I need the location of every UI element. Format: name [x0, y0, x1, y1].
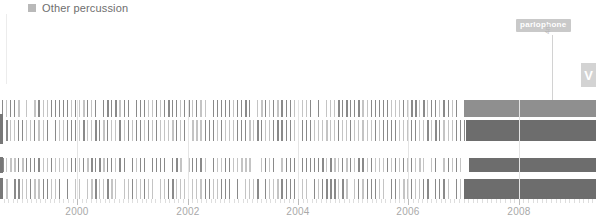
chart-bar — [415, 120, 416, 141]
axis-minor-tick — [128, 199, 129, 203]
chart-bar — [34, 120, 35, 141]
chart-bar — [119, 158, 121, 172]
chart-bar — [67, 100, 68, 117]
chart-bar — [67, 158, 68, 172]
chart-bar — [371, 179, 372, 199]
axis-minor-tick — [178, 199, 179, 203]
axis-minor-tick — [275, 199, 276, 203]
chart-bar — [63, 100, 65, 117]
chart-bar — [294, 158, 295, 172]
chart-bar — [184, 100, 185, 117]
chart-bar — [233, 120, 234, 141]
axis-minor-tick — [201, 199, 202, 203]
chart-bar — [140, 179, 142, 199]
axis-minor-tick — [91, 199, 92, 203]
chart-bar — [205, 158, 206, 172]
chart-bar — [395, 120, 397, 141]
lane-highlight-block[interactable] — [464, 100, 596, 117]
side-panel-toggle[interactable]: V — [581, 63, 596, 87]
chart-bar — [221, 120, 222, 141]
axis-minor-tick — [431, 199, 432, 203]
chart-bar — [395, 179, 396, 199]
chart-bar — [59, 100, 61, 117]
chart-bar — [103, 158, 105, 172]
chart-plot-area[interactable] — [0, 100, 596, 199]
chart-bar — [362, 179, 364, 199]
chart-bar — [354, 158, 355, 172]
chart-bar — [75, 120, 76, 141]
chart-bar — [237, 179, 238, 199]
chart-bar — [14, 100, 15, 117]
chart-bar — [111, 179, 113, 199]
chart-bar — [83, 158, 84, 172]
chart-bar — [367, 100, 369, 117]
chart-bar — [249, 120, 251, 141]
chart-bar — [59, 158, 61, 172]
axis-minor-tick — [4, 199, 5, 203]
lane-highlight-block[interactable] — [466, 120, 596, 141]
chart-bar — [128, 100, 129, 117]
chart-bar — [43, 179, 44, 199]
chart-bar — [403, 120, 404, 141]
chart-bar — [334, 120, 335, 141]
chart-gridline — [188, 100, 189, 199]
chart-bar — [326, 100, 327, 117]
chart-bar — [415, 179, 416, 199]
chart-bar — [358, 158, 360, 172]
chart-bar — [281, 100, 282, 117]
chart-bar — [435, 179, 436, 199]
chart-bar — [205, 179, 206, 199]
chart-bar — [443, 120, 445, 141]
chart-bar — [411, 100, 413, 117]
chart-bar — [294, 120, 295, 141]
chart-bar — [452, 158, 453, 172]
chart-bar — [241, 100, 242, 117]
chart-bar — [18, 120, 19, 141]
chart-bar — [302, 158, 304, 172]
chart-bar — [249, 158, 251, 172]
chart-bar — [79, 120, 80, 141]
chevron-collapse-icon: V — [584, 69, 593, 82]
axis-minor-tick — [326, 199, 327, 203]
chart-bar — [22, 120, 23, 141]
chart-bar — [18, 179, 20, 199]
lane-highlight-block[interactable] — [469, 158, 596, 172]
chart-bar — [75, 100, 76, 117]
chart-bar — [107, 158, 108, 172]
chart-bar — [367, 120, 368, 141]
axis-minor-tick — [229, 199, 230, 203]
chart-bar — [326, 158, 327, 172]
axis-minor-tick — [105, 199, 106, 203]
chart-bar — [277, 120, 279, 141]
chart-bar — [168, 179, 169, 199]
chart-bar — [71, 158, 72, 172]
chart-bar — [148, 100, 149, 117]
chart-bar — [192, 158, 193, 172]
axis-minor-tick — [335, 199, 336, 203]
axis-minor-tick — [307, 199, 308, 203]
chart-bar — [322, 120, 323, 141]
chart-bar — [423, 179, 424, 199]
chart-bar — [217, 100, 218, 117]
edge-stub-marker — [0, 157, 3, 173]
chart-bar — [213, 179, 214, 199]
chart-bar — [38, 120, 40, 141]
chart-bar — [34, 179, 36, 199]
chart-bar — [286, 158, 287, 172]
chart-bar — [237, 100, 238, 117]
chart-bar — [391, 120, 392, 141]
chart-bar — [362, 120, 363, 141]
axis-minor-tick — [546, 199, 547, 203]
chart-bar — [448, 100, 449, 117]
chart-bar — [184, 179, 185, 199]
axis-minor-tick — [86, 199, 87, 203]
axis-minor-tick — [390, 199, 391, 203]
chart-bar — [423, 100, 425, 117]
lane-highlight-block[interactable] — [464, 179, 596, 199]
chart-bar — [91, 158, 93, 172]
axis-minor-tick — [372, 199, 373, 203]
chart-bar — [148, 179, 149, 199]
chart-bar — [265, 158, 266, 172]
chart-bar — [245, 120, 246, 141]
chart-bar — [318, 179, 319, 199]
